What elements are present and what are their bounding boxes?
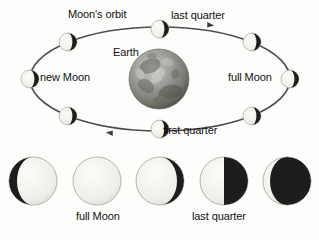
orbit-moon-last-quarter-top (151, 20, 169, 38)
orbit-moon-waning-lower-right (243, 107, 261, 125)
orbit-moon-full-moon (281, 70, 299, 88)
label-earth: Earth (113, 47, 139, 58)
full-moon-disc (73, 157, 121, 205)
moon-phases-diagram: Moon's orbit last quarter Earth new Moon… (0, 0, 319, 240)
diagram-canvas (0, 0, 319, 240)
orbit-moon-new-moon (21, 70, 39, 88)
label-full-moon-row: full Moon (76, 211, 120, 222)
label-last-quarter-row: last quarter (192, 211, 246, 222)
label-full-moon-orbit: full Moon (228, 72, 272, 83)
phase-moon-waxing-gibbous (9, 157, 57, 205)
label-moons-orbit: Moon's orbit (68, 9, 126, 20)
label-new-moon: new Moon (40, 72, 90, 83)
orbit-moon-waxing-lower-left (59, 107, 77, 125)
phase-moon-full (73, 157, 121, 205)
orbit-arrow-bottom (105, 129, 114, 136)
phase-moon-last-quarter (200, 157, 248, 205)
label-first-quarter: first quarter (163, 125, 217, 136)
orbit-moon-waning-upper-right (243, 33, 261, 51)
earth-sphere (129, 49, 189, 109)
orbit-arrow-top (206, 22, 215, 29)
phase-moon-waning-gibbous (136, 157, 184, 205)
label-last-quarter-top: last quarter (171, 10, 225, 21)
orbit-moon-waxing-upper-left (59, 33, 77, 51)
phase-moon-waning-crescent (263, 157, 311, 205)
